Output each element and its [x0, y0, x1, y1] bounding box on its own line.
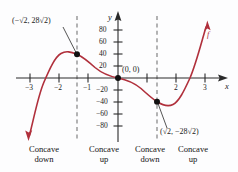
label-right-inflection: (√2, −28√2): [160, 128, 199, 136]
leader-line-left-inflection: [63, 27, 76, 53]
x-axis-label: x: [225, 82, 229, 91]
x-tick-label-3: 3: [203, 84, 207, 92]
curve-arrow-lower-left: [25, 130, 32, 141]
y-tick-label-neg80: −80: [96, 122, 108, 130]
function-label-f: f: [207, 30, 209, 39]
caption-line2: down: [14, 154, 74, 164]
leader-line-right-inflection: [158, 104, 167, 129]
x-tick-label-neg1: −1: [83, 84, 91, 92]
label-left-inflection: (−√2, 28√2): [12, 17, 51, 25]
y-tick-label-neg60: −60: [96, 110, 108, 118]
y-axis-label: y: [108, 13, 112, 22]
point-origin: [115, 75, 121, 81]
y-tick-label-80: 80: [99, 26, 107, 34]
x-tick-label-neg2: −2: [54, 84, 62, 92]
y-tick-label-neg40: −40: [96, 98, 108, 106]
caption-line1: Concave: [14, 144, 74, 154]
caption-line2: up: [164, 154, 222, 164]
y-tick-label-40: 40: [99, 50, 107, 58]
y-tick-label-20: 20: [99, 62, 107, 70]
x-tick-label-neg3: −3: [25, 84, 33, 92]
point-right-inflection: [154, 99, 160, 105]
caption-interval-4: Concave up: [164, 144, 222, 164]
y-tick-label-60: 60: [99, 38, 107, 46]
label-origin: (0, 0): [122, 66, 139, 74]
caption-line1: Concave: [164, 144, 222, 154]
y-tick-label-neg20: −20: [96, 86, 108, 94]
point-left-inflection: [74, 51, 80, 57]
caption-interval-1: Concave down: [14, 144, 74, 164]
x-tick-label-2: 2: [174, 84, 178, 92]
